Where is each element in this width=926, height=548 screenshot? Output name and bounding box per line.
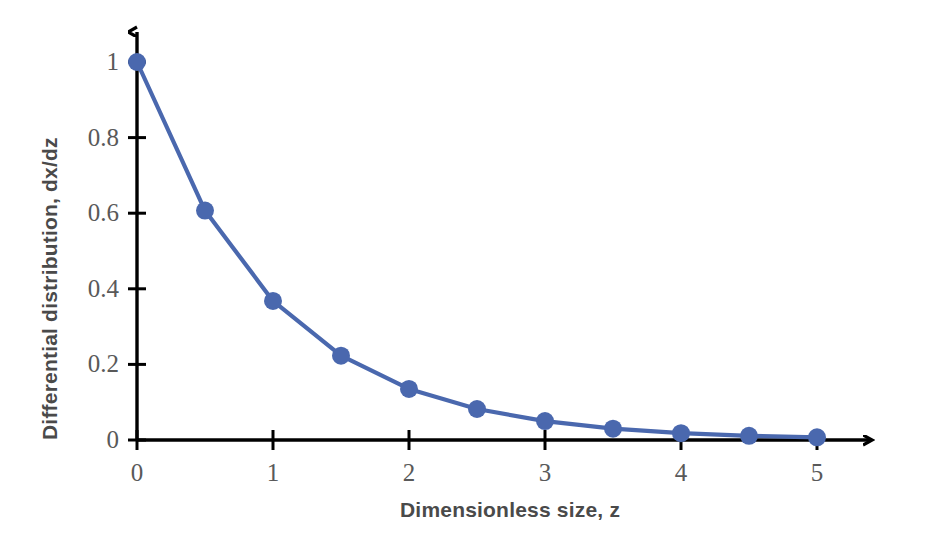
axis-lines — [137, 32, 872, 440]
data-point — [264, 292, 282, 310]
data-series-line — [137, 62, 817, 437]
data-point — [400, 380, 418, 398]
y-tick-label: 1 — [107, 49, 120, 74]
data-point — [536, 412, 554, 430]
data-point — [128, 53, 146, 71]
x-tick-label: 5 — [787, 460, 847, 485]
data-point — [808, 428, 826, 446]
chart-figure: 00.20.40.60.81 012345 Differential distr… — [0, 0, 926, 548]
data-point — [468, 400, 486, 418]
data-point — [332, 347, 350, 365]
y-tick-label: 0.6 — [88, 200, 119, 225]
x-tick-label: 3 — [515, 460, 575, 485]
y-axis-title: Differential distribution, dx/dz — [38, 137, 62, 440]
y-tick-label: 0.4 — [88, 276, 119, 301]
x-tick-label: 2 — [379, 460, 439, 485]
data-point — [604, 420, 622, 438]
data-point — [196, 202, 214, 220]
x-tick-label: 0 — [107, 460, 167, 485]
y-tick-label: 0.2 — [88, 351, 119, 376]
y-tick-label: 0 — [107, 427, 120, 452]
x-axis-title: Dimensionless size, z — [400, 498, 620, 522]
x-tick-label: 1 — [243, 460, 303, 485]
data-point — [672, 424, 690, 442]
data-point — [740, 427, 758, 445]
y-tick-label: 0.8 — [88, 125, 119, 150]
x-tick-label: 4 — [651, 460, 711, 485]
